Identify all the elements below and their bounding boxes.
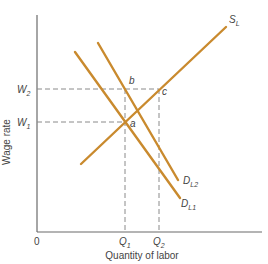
x-axis-title: Quantity of labor <box>105 250 179 261</box>
point-a-label: a <box>130 118 136 129</box>
demand-curve-dl1 <box>75 52 180 198</box>
sl-label: SL <box>229 14 240 27</box>
supply-curve-sl <box>81 27 226 164</box>
guide-lines <box>37 89 159 232</box>
labor-market-chart: W2 W1 Wage rate 0 Q1 Q2 Quantity of labo… <box>0 0 268 264</box>
point-c-label: c <box>162 86 167 97</box>
origin-label: 0 <box>34 236 40 247</box>
q2-label: Q2 <box>153 236 165 249</box>
w1-label: W1 <box>17 117 30 130</box>
point-b-label: b <box>129 75 135 86</box>
w2-label: W2 <box>17 84 30 97</box>
dl1-label: DL1 <box>181 198 196 211</box>
y-axis-title: Wage rate <box>1 119 12 165</box>
q1-label: Q1 <box>119 236 131 249</box>
dl2-label: DL2 <box>183 175 198 188</box>
